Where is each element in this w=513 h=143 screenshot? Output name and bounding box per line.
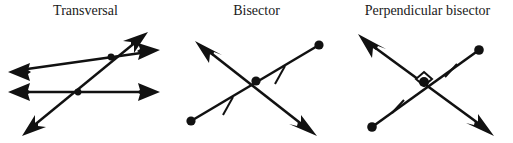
intersection-dot-lower bbox=[75, 89, 82, 96]
midpoint-dot bbox=[419, 77, 429, 87]
arrowhead-right-lower bbox=[137, 83, 160, 101]
bisected-segment bbox=[367, 45, 484, 132]
panel-label-transversal: Transversal bbox=[0, 2, 171, 20]
bisector-diagram bbox=[171, 22, 342, 143]
geometry-figure: Transversal bbox=[0, 0, 513, 143]
panel-label-perpendicular-bisector: Perpendicular bisector bbox=[342, 2, 513, 20]
midpoint-dot bbox=[251, 76, 260, 85]
transversal-line bbox=[22, 32, 148, 136]
segment-endpoint-upper-right bbox=[474, 45, 484, 55]
intersection-dot-upper bbox=[108, 54, 115, 61]
upper-parallel-line bbox=[8, 43, 160, 81]
segment-endpoint-lower-left bbox=[367, 122, 377, 132]
panel-perpendicular-bisector: Perpendicular bisector bbox=[342, 0, 513, 143]
bisecting-line bbox=[195, 41, 317, 136]
arrowhead-right-upper bbox=[137, 43, 160, 60]
arrowhead-left-lower bbox=[8, 83, 31, 101]
panel-label-bisector: Bisector bbox=[171, 2, 342, 20]
panel-bisector: Bisector bbox=[171, 0, 342, 143]
arrowhead-left-upper bbox=[8, 63, 31, 81]
segment-endpoint-lower-left bbox=[186, 116, 195, 125]
panel-transversal: Transversal bbox=[0, 0, 171, 143]
perpendicular-bisector-diagram bbox=[342, 22, 513, 143]
arrowhead-upper-left-perp bbox=[358, 34, 386, 58]
segment-endpoint-upper-right bbox=[314, 40, 323, 49]
transversal-diagram bbox=[0, 22, 171, 143]
tick-mark-upper bbox=[445, 64, 457, 77]
